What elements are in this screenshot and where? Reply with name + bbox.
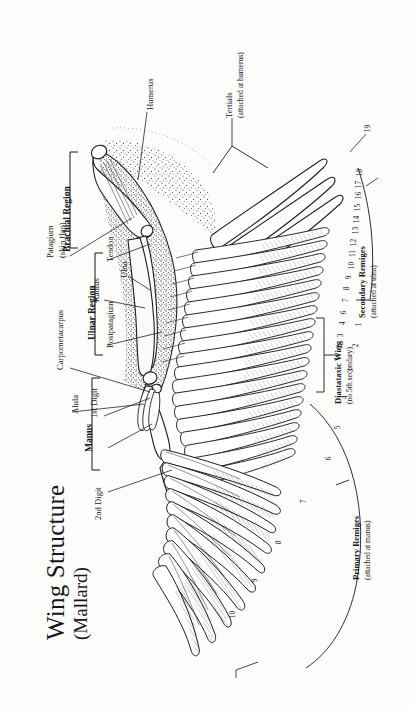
primary-number-10: 10	[228, 611, 237, 618]
secondary-number-12: 12	[350, 239, 359, 246]
primary-number-6: 6	[325, 456, 334, 460]
secondary-number-1: 1	[333, 357, 342, 361]
label-alula: Alula	[71, 395, 81, 414]
secondary-number-4: 4	[338, 322, 347, 326]
label-secondary-remiges: Secondary Remiges	[358, 246, 368, 318]
secondary-number-7: 7	[341, 299, 350, 303]
label-tertials-attachment: (attached at humerus)	[237, 52, 246, 118]
bracket-primary-tip	[236, 662, 258, 678]
label-primary-remiges-attachment: (attached at manus)	[364, 521, 373, 580]
label-tertials: Tertials	[225, 92, 235, 118]
primary-number-8: 8	[275, 540, 284, 544]
page-title: Wing Structure	[42, 485, 70, 640]
label-second-digit: 2nd Digit	[94, 487, 104, 520]
secondary-number-18: 18	[355, 169, 364, 176]
label-brachial-region: Brachial Region	[62, 186, 73, 252]
page-subtitle: (Mallard)	[70, 567, 91, 640]
primary-number-9: 9	[250, 579, 259, 583]
secondary-number-3: 3	[336, 333, 345, 337]
primary-number-1: 1	[354, 322, 363, 326]
primary-feathers	[153, 450, 281, 656]
label-ulnar-region: Ulnar Region	[87, 286, 98, 340]
label-humerus: Humerus	[146, 78, 156, 110]
secondary-number-10: 10	[347, 262, 356, 269]
label-secondary-remiges-attachment: (attached at ulna)	[370, 265, 379, 318]
label-carpometacarpus: Carpometacarpus	[56, 310, 66, 370]
secondary-feathers	[173, 228, 330, 486]
secondary-number-17: 17	[355, 180, 364, 187]
secondary-number-8: 8	[343, 287, 352, 291]
bracket-tertials	[213, 146, 268, 173]
label-postpatagium: Postpatagium	[106, 301, 116, 348]
label-ulna: Ulna	[120, 261, 130, 278]
primary-number-3: 3	[346, 368, 355, 372]
tertial-number-19: 19	[363, 125, 372, 132]
label-first-digit: 1st Digit	[90, 388, 100, 418]
primary-number-7: 7	[300, 499, 309, 503]
label-patagium: Patagium	[46, 226, 56, 258]
illustration-plate: Wing Structure (Mallard) Humerus Radius …	[0, 0, 413, 709]
primary-number-4: 4	[340, 396, 349, 400]
secondary-number-6: 6	[340, 310, 349, 314]
primary-number-5: 5	[333, 426, 342, 430]
secondary-number-2: 2	[335, 345, 344, 349]
label-tendon: Tendon	[106, 236, 116, 262]
secondary-number-14: 14	[352, 215, 361, 222]
secondary-number-11: 11	[348, 250, 357, 257]
secondary-number-9: 9	[344, 275, 353, 279]
secondary-number-13: 13	[351, 227, 360, 234]
secondary-number-16: 16	[354, 192, 363, 199]
label-primary-remiges: Primary Remiges	[352, 516, 362, 580]
secondary-number-15: 15	[353, 204, 362, 211]
primary-number-2: 2	[351, 343, 360, 347]
alula-feathers	[138, 386, 160, 431]
label-manus: Manus	[84, 424, 95, 452]
